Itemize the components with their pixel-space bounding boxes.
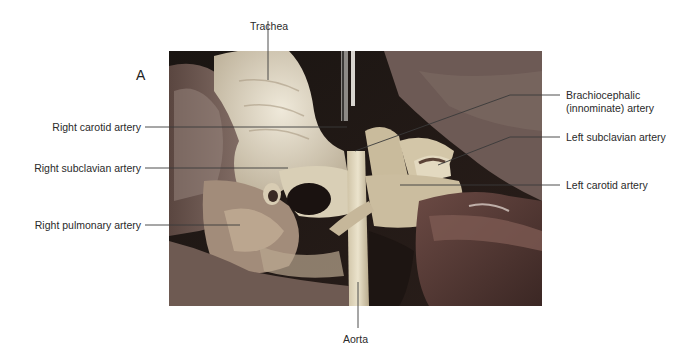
label-right-pulmonary-artery: Right pulmonary artery (35, 219, 141, 231)
label-right-subclavian-artery: Right subclavian artery (34, 162, 141, 174)
label-brachiocephalic-line1: Brachiocephalic (566, 89, 640, 101)
label-right-carotid-artery: Right carotid artery (52, 121, 141, 133)
dissection-photo (169, 51, 542, 306)
label-left-carotid-artery: Left carotid artery (566, 179, 648, 191)
label-left-subclavian-artery: Left subclavian artery (566, 131, 666, 143)
label-brachiocephalic-line2: (innominate) artery (566, 102, 654, 114)
label-trachea: Trachea (250, 20, 288, 32)
panel-letter: A (136, 67, 145, 83)
label-aorta: Aorta (343, 333, 368, 345)
